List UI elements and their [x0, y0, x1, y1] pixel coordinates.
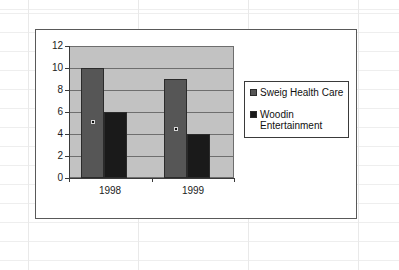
- y-tick-label-2: 2: [57, 151, 63, 161]
- x-tick-label-1999: 1999: [182, 186, 204, 196]
- y-tick-8: [65, 90, 69, 91]
- y-tick-label-10: 10: [52, 63, 63, 73]
- x-tick-label-1998: 1998: [99, 186, 121, 196]
- bar-1999-sweig[interactable]: [164, 79, 187, 178]
- legend-label-woodin: Woodin Entertainment: [260, 109, 322, 131]
- bar-1999-woodin[interactable]: [187, 134, 210, 178]
- plot-wrap: 12 10 8 6 4 2 0 1998 1999: [69, 46, 234, 178]
- legend-label-sweig: Sweig Health Care: [260, 87, 343, 98]
- x-tick-end: [234, 178, 235, 182]
- chart-legend[interactable]: Sweig Health Care Woodin Entertainment: [244, 81, 349, 138]
- legend-swatch-icon: [250, 111, 257, 118]
- gridline-12: [69, 46, 234, 47]
- embedded-chart-object[interactable]: 12 10 8 6 4 2 0 1998 1999 Sweig Health C…: [35, 29, 357, 219]
- bar-1998-sweig[interactable]: [81, 68, 104, 178]
- y-tick-6: [65, 112, 69, 113]
- data-marker-icon: [91, 120, 95, 124]
- y-tick-label-4: 4: [57, 129, 63, 139]
- y-tick-12: [65, 46, 69, 47]
- x-tick-mid: [152, 178, 153, 182]
- bar-1998-woodin[interactable]: [104, 112, 127, 178]
- y-tick-label-6: 6: [57, 107, 63, 117]
- y-tick-10: [65, 68, 69, 69]
- legend-swatch-icon: [250, 89, 257, 96]
- y-axis-line[interactable]: [69, 46, 70, 179]
- y-tick-label-12: 12: [52, 41, 63, 51]
- data-marker-icon: [174, 127, 178, 131]
- y-tick-label-8: 8: [57, 85, 63, 95]
- legend-item-woodin-entertainment[interactable]: Woodin Entertainment: [250, 109, 344, 131]
- y-tick-4: [65, 134, 69, 135]
- legend-item-sweig-health-care[interactable]: Sweig Health Care: [250, 87, 344, 98]
- y-tick-label-0: 0: [57, 173, 63, 183]
- y-tick-2: [65, 156, 69, 157]
- x-tick-start: [69, 178, 70, 182]
